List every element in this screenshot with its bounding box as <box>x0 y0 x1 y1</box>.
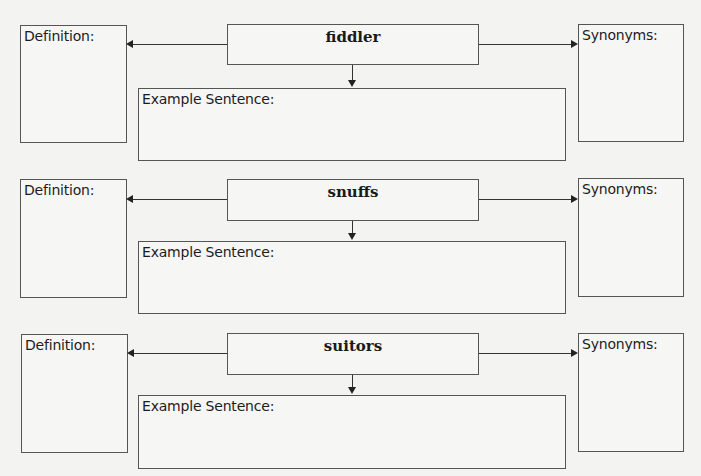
connector-line-right <box>479 199 571 200</box>
example-sentence-box[interactable]: Example Sentence: <box>138 395 566 469</box>
arrow-left-icon <box>126 40 133 48</box>
connector-line-right <box>479 44 571 45</box>
arrow-right-icon <box>571 349 578 357</box>
connector-line-down <box>352 65 353 81</box>
vocab-word-box: fiddler <box>227 24 479 65</box>
synonyms-label: Synonyms: <box>582 181 658 197</box>
arrow-left-icon <box>126 195 133 203</box>
synonyms-label: Synonyms: <box>582 336 658 352</box>
definition-box[interactable]: Definition: <box>21 334 128 453</box>
example-sentence-box[interactable]: Example Sentence: <box>138 88 566 161</box>
synonyms-box[interactable]: Synonyms: <box>578 24 684 142</box>
example-sentence-label: Example Sentence: <box>142 91 274 107</box>
arrow-down-icon <box>348 387 356 394</box>
connector-line-left <box>133 44 227 45</box>
vocab-word: suitors <box>228 337 478 355</box>
arrow-right-icon <box>571 195 578 203</box>
synonyms-box[interactable]: Synonyms: <box>578 333 684 452</box>
definition-box[interactable]: Definition: <box>20 179 127 298</box>
definition-label: Definition: <box>25 337 95 353</box>
arrow-down-icon <box>348 233 356 240</box>
definition-label: Definition: <box>24 28 94 44</box>
synonyms-label: Synonyms: <box>582 27 658 43</box>
definition-box[interactable]: Definition: <box>20 25 127 143</box>
connector-line-right <box>479 353 571 354</box>
vocab-word: fiddler <box>228 28 478 46</box>
synonyms-box[interactable]: Synonyms: <box>578 178 684 297</box>
example-sentence-box[interactable]: Example Sentence: <box>138 241 566 314</box>
connector-line-left <box>133 199 227 200</box>
definition-label: Definition: <box>24 182 94 198</box>
arrow-down-icon <box>348 80 356 87</box>
example-sentence-label: Example Sentence: <box>142 244 274 260</box>
connector-line-left <box>134 353 227 354</box>
arrow-left-icon <box>127 349 134 357</box>
vocab-word-box: snuffs <box>227 179 479 221</box>
vocab-word: snuffs <box>228 183 478 201</box>
example-sentence-label: Example Sentence: <box>142 398 274 414</box>
vocab-word-box: suitors <box>227 333 479 375</box>
arrow-right-icon <box>571 40 578 48</box>
